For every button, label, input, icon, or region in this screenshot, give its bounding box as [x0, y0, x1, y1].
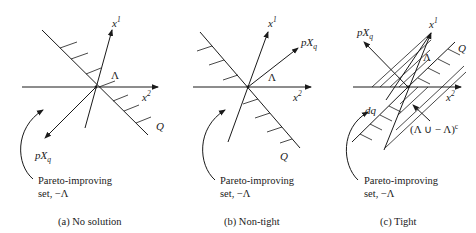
x1-axis [85, 30, 112, 128]
pareto-label-line1: Pareto-improving [364, 175, 439, 186]
panel-c: x1 x2 Λ pXq Q dq (Λ ∪ − Λ)c Pareto-impro… [346, 16, 466, 228]
q-hatching [197, 46, 292, 143]
lambda-label: Λ [111, 69, 119, 81]
pxq-label: pXq [300, 36, 317, 51]
q-label: Q [280, 150, 288, 162]
x1-label: x1 [111, 15, 121, 29]
curved-arrow [21, 110, 43, 179]
x2-label: x2 [445, 89, 455, 103]
figure-three-panels: x1 x2 Λ pXq Q Pareto-improving set, −Λ (… [0, 0, 476, 233]
q-line [200, 32, 300, 148]
origin-dot [95, 86, 98, 89]
origin-dot [247, 86, 250, 89]
pxq-label: pXq [356, 26, 373, 41]
panel-caption: (a) No solution [58, 216, 122, 228]
lambda-label: Λ [268, 71, 276, 83]
x2-label: x2 [292, 89, 302, 103]
lambda-label: Λ [423, 51, 431, 63]
curved-arrow [346, 112, 368, 180]
origin-dot [407, 86, 410, 89]
q-line [42, 30, 148, 135]
panel-caption: (c) Tight [380, 216, 417, 228]
pareto-label-line1: Pareto-improving [38, 175, 113, 186]
pareto-label-line2: set, −Λ [38, 188, 69, 199]
pareto-label-line2: set, −Λ [364, 188, 395, 199]
q-label: Q [458, 42, 466, 54]
complement-label: (Λ ∪ − Λ)c [410, 122, 459, 136]
curved-arrow [203, 110, 225, 180]
pxq-arrow [364, 42, 408, 87]
complement-pointer [413, 105, 430, 121]
complement-region-lines [385, 66, 466, 148]
pxq-arrow [45, 87, 96, 138]
panel-b: x1 x2 Λ pXq Q Pareto-improving set, −Λ (… [193, 15, 317, 228]
pxq-label: pXq [34, 149, 51, 164]
x1-label: x1 [428, 16, 438, 30]
x2-label: x2 [141, 89, 151, 103]
panel-a: x1 x2 Λ pXq Q Pareto-improving set, −Λ (… [21, 15, 164, 228]
q-line [408, 42, 455, 87]
pareto-label-line1: Pareto-improving [220, 175, 295, 186]
pareto-label-line2: set, −Λ [220, 188, 251, 199]
q-label: Q [156, 120, 164, 132]
x1-label: x1 [267, 15, 277, 29]
panel-caption: (b) Non-tight [224, 216, 280, 228]
dq-label: dq [365, 104, 377, 116]
